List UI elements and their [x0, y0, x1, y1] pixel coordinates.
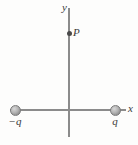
negative-charge-sphere: [10, 105, 21, 116]
negative-charge-label: −q: [4, 116, 26, 127]
field-point-dot: [67, 31, 72, 36]
positive-charge-sphere: [110, 105, 121, 116]
x-axis-label: x: [128, 103, 133, 114]
y-axis-label: y: [62, 2, 67, 13]
positive-charge-label: q: [105, 116, 125, 127]
x-axis-line: [10, 109, 126, 111]
electric-dipole-diagram: y x P −q q: [0, 0, 138, 145]
y-axis-line: [68, 8, 70, 137]
field-point-label: P: [73, 27, 80, 38]
